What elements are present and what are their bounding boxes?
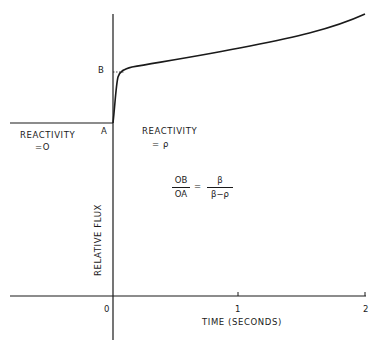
x-tick-2-label: 2	[363, 305, 369, 314]
flux-diagram	[0, 0, 372, 348]
flux-curve	[113, 14, 365, 123]
formula-lhs: OB OA	[172, 176, 190, 198]
formula-lhs-denominator: OA	[172, 188, 190, 199]
x-axis-label: TIME (SECONDS)	[202, 318, 282, 327]
point-b-label: B	[98, 66, 104, 75]
x-tick-0-label: 0	[104, 305, 110, 314]
formula-rhs-numerator: β	[207, 176, 233, 188]
point-a-label: A	[101, 127, 107, 136]
left-reactivity-label: REACTIVITY	[20, 131, 75, 140]
formula-equals: =	[194, 182, 202, 191]
y-axis-label: RELATIVE FLUX	[94, 204, 103, 276]
right-reactivity-value: = ρ	[152, 140, 169, 149]
formula-lhs-numerator: OB	[172, 176, 190, 188]
x-tick-1-label: 1	[235, 305, 241, 314]
formula-rhs-denominator: β−ρ	[207, 188, 233, 199]
right-reactivity-label: REACTIVITY	[142, 127, 197, 136]
left-reactivity-value: =O	[35, 143, 50, 152]
formula-rhs: β β−ρ	[207, 176, 233, 198]
